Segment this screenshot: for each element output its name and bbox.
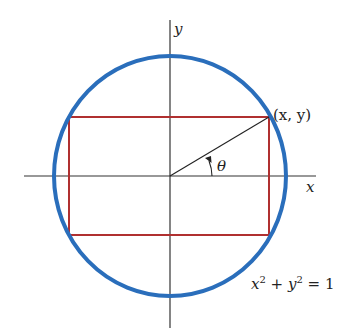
circle-equation: x2 + y2 = 1	[251, 274, 334, 293]
y-axis-label: y	[173, 20, 183, 38]
arrowhead-icon	[205, 156, 212, 163]
x-axis-label: x	[306, 178, 315, 196]
angle-arc	[209, 161, 212, 176]
equation-rest: = 1	[303, 275, 335, 293]
unit-circle-diagram: y x (x, y) θ x2 + y2 = 1	[0, 0, 352, 334]
equation-plus: +	[266, 275, 288, 293]
point-label: (x, y)	[273, 106, 311, 124]
theta-label: θ	[217, 157, 226, 175]
